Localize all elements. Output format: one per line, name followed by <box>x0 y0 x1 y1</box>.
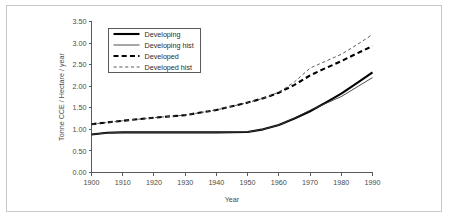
x-axis-tick-label: 1960 <box>271 178 287 187</box>
y-axis-tick-label: 3.00 <box>73 39 87 48</box>
y-axis-tick-label: 0.00 <box>73 168 87 177</box>
legend-label-developing-hist: Developing hist <box>145 41 194 50</box>
x-axis-tick-label: 1940 <box>208 178 224 187</box>
legend-label-developed-hist: Developed hist <box>145 63 193 72</box>
chart-figure: 0.000.501.001.502.002.503.003.5019001910… <box>0 0 449 219</box>
line-chart: 0.000.501.001.502.002.503.003.5019001910… <box>0 0 449 219</box>
y-axis-title: Tonne CCE / Hectare / year <box>57 52 66 140</box>
y-axis-tick-label: 2.50 <box>73 60 87 69</box>
y-axis-tick-label: 2.00 <box>73 82 87 91</box>
x-axis-tick-label: 1980 <box>333 178 349 187</box>
x-axis-tick-label: 1920 <box>146 178 162 187</box>
x-axis-tick-label: 1950 <box>240 178 256 187</box>
y-axis-tick-label: 3.50 <box>73 17 87 26</box>
series-line-developing <box>92 72 373 134</box>
y-axis-tick-label: 1.00 <box>73 125 87 134</box>
x-axis-tick-label: 1930 <box>177 178 193 187</box>
x-axis-tick-label: 1990 <box>365 178 381 187</box>
legend-label-developing: Developing <box>145 30 181 39</box>
y-axis-tick-label: 1.50 <box>73 103 87 112</box>
x-axis-title: Year <box>225 195 240 204</box>
x-axis-tick-label: 1970 <box>302 178 318 187</box>
x-axis-tick-label: 1900 <box>84 178 100 187</box>
x-axis-tick-label: 1910 <box>115 178 131 187</box>
y-axis-tick-label: 0.50 <box>73 147 87 156</box>
legend-label-developed: Developed <box>145 52 179 61</box>
